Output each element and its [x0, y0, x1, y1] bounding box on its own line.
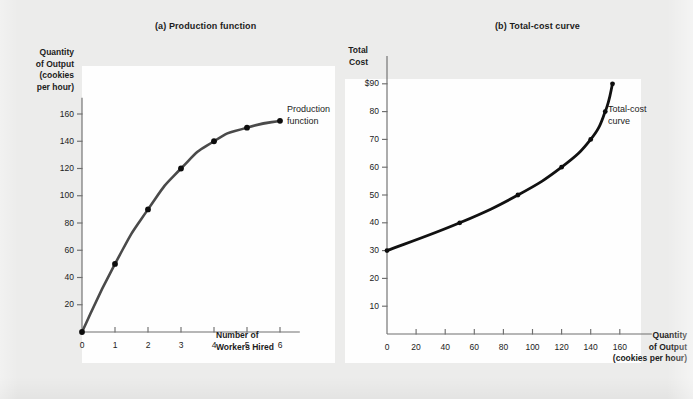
- curve-label-a-line2: function: [287, 115, 330, 127]
- y-axis-title-b-line1: Total: [326, 45, 368, 57]
- y-tick-label: 40: [341, 217, 379, 227]
- curve-label-a-line1: Production: [287, 103, 330, 115]
- y-tick-label: 50: [341, 190, 379, 200]
- y-tick-label: 60: [341, 162, 379, 172]
- y-axis-title-b-line2: Cost: [326, 57, 368, 69]
- y-axis-title-b: Total Cost: [326, 45, 368, 68]
- y-axis-title-a: Quantity of Output (cookies per hour): [8, 47, 74, 93]
- x-axis-title-b-line3: (cookies per hour): [545, 353, 687, 365]
- x-tick-label: 1: [105, 340, 125, 350]
- y-tick-label: 60: [36, 245, 74, 255]
- panel-title-a: (a) Production function: [155, 21, 256, 31]
- x-tick-label: 60: [464, 342, 484, 352]
- x-tick-label: 4: [204, 340, 224, 350]
- x-tick-label: 100: [523, 342, 543, 352]
- y-axis-title-a-line2: of Output: [8, 59, 74, 71]
- x-tick-label: 80: [493, 342, 513, 352]
- y-tick-label: 80: [36, 218, 74, 228]
- y-tick-label: 100: [36, 190, 74, 200]
- y-axis-title-a-line4: per hour): [8, 82, 74, 94]
- y-tick-label: 70: [341, 134, 379, 144]
- y-tick-label: 120: [36, 163, 74, 173]
- x-axis-title-b-line1: Quantity: [545, 330, 687, 342]
- x-tick-label: 3: [171, 340, 191, 350]
- curve-label-total-cost-curve: Total-cost curve: [608, 103, 647, 127]
- x-tick-label: 40: [435, 342, 455, 352]
- y-axis-title-a-line1: Quantity: [8, 47, 74, 59]
- curve-label-b-line1: Total-cost: [608, 103, 647, 115]
- panel-title-b: (b) Total-cost curve: [495, 21, 580, 31]
- y-tick-label: $90: [341, 78, 379, 88]
- series-group-a: [79, 118, 283, 335]
- y-tick-label: 30: [341, 245, 379, 255]
- y-tick-label: 20: [341, 273, 379, 283]
- curve-label-production-function: Production function: [287, 103, 330, 127]
- x-tick-label: 160: [610, 342, 630, 352]
- x-tick-label: 2: [138, 340, 158, 350]
- x-tick-label: 20: [406, 342, 426, 352]
- y-tick-label: 10: [341, 301, 379, 311]
- x-tick-label: 0: [377, 342, 397, 352]
- x-tick-label: 5: [237, 340, 257, 350]
- y-tick-label: 20: [36, 299, 74, 309]
- x-tick-label: 6: [270, 340, 290, 350]
- y-axis-title-a-line3: (cookies: [8, 70, 74, 82]
- axes-group-a: [77, 98, 300, 333]
- figure-canvas: (a) Production function (b) Total-cost c…: [0, 0, 693, 399]
- y-tick-label: 40: [36, 272, 74, 282]
- x-tick-label: 0: [72, 340, 92, 350]
- series-group-b: [385, 81, 615, 253]
- y-tick-label: 140: [36, 136, 74, 146]
- x-tick-label: 140: [581, 342, 601, 352]
- curve-label-b-line2: curve: [608, 115, 647, 127]
- x-tick-label: 120: [552, 342, 572, 352]
- y-tick-label: 80: [341, 106, 379, 116]
- y-tick-label: 160: [36, 109, 74, 119]
